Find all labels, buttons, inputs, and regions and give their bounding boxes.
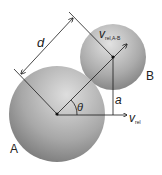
center-dot-b [111, 55, 114, 58]
collision-diagram: d θ a A B vrel vrel,A-B [0, 0, 162, 175]
distance-arrow [21, 18, 73, 74]
label-offset: a [115, 93, 122, 107]
label-sphere-a: A [10, 142, 18, 156]
label-sphere-b: B [146, 69, 154, 83]
center-dot-a [55, 112, 58, 115]
label-distance: d [37, 35, 45, 50]
label-v-rel: vrel [129, 111, 141, 125]
label-v-rel-ab-sub: rel,A-B [105, 35, 121, 41]
label-angle: θ [77, 101, 83, 113]
label-v-rel-sub: rel [135, 119, 141, 125]
